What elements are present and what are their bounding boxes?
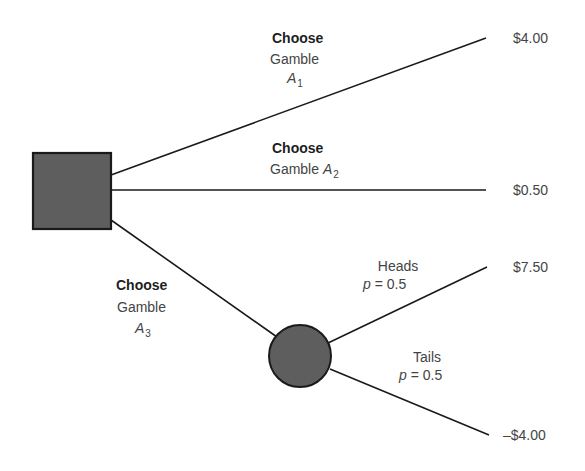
- gamble-a1-word-label: Gamble: [270, 51, 319, 67]
- payoff-gamble-a2: $0.50: [513, 182, 548, 198]
- heads-prob-value: = 0.5: [375, 276, 407, 292]
- gamble-a1-action-label: Choose: [272, 30, 323, 46]
- chance-node-circle: [269, 325, 331, 387]
- tails-prob-symbol: p: [399, 367, 407, 383]
- gamble-a1-symbol: A1: [287, 70, 303, 88]
- heads-probability-label: p = 0.5: [363, 276, 406, 292]
- gamble-a3-symbol: A3: [135, 320, 151, 338]
- tails-probability-label: p = 0.5: [399, 367, 442, 383]
- gamble-a3-symbol-letter: A: [135, 320, 144, 336]
- tails-prob-value: = 0.5: [411, 367, 443, 383]
- gamble-a1-subscript: 1: [297, 78, 303, 89]
- gamble-a1-symbol-letter: A: [287, 70, 296, 86]
- payoff-heads: $7.50: [513, 259, 548, 275]
- gamble-a3-subscript: 3: [145, 328, 151, 339]
- gamble-a3-action-label: Choose: [116, 277, 167, 293]
- tails-event-label: Tails: [406, 349, 448, 365]
- branch-line-heads: [328, 267, 487, 343]
- payoff-gamble-a1: $4.00: [513, 30, 548, 46]
- decision-node-square: [33, 153, 111, 229]
- heads-event-label: Heads: [370, 258, 426, 274]
- gamble-a3-word-label: Gamble: [117, 299, 166, 315]
- gamble-a2-word-label: Gamble A2: [270, 161, 339, 179]
- gamble-a2-symbol-letter: A: [323, 161, 332, 177]
- heads-prob-symbol: p: [363, 276, 371, 292]
- gamble-a2-word: Gamble: [270, 161, 319, 177]
- payoff-tails: –$4.00: [503, 427, 546, 443]
- gamble-a2-subscript: 2: [333, 169, 339, 180]
- gamble-a2-action-label: Choose: [272, 140, 323, 156]
